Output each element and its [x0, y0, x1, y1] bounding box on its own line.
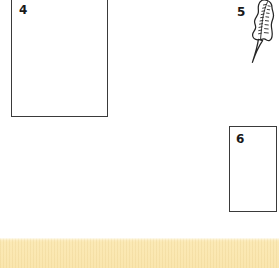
- feather-quill-drawing: [246, 0, 279, 70]
- document-page: 4 5: [0, 0, 279, 268]
- item-number-5: 5: [237, 6, 245, 18]
- item-number-4: 4: [19, 4, 27, 16]
- item-number-6: 6: [236, 133, 244, 145]
- band-top-highlight: [0, 238, 279, 240]
- feather-icon: [246, 0, 279, 70]
- answer-box-4[interactable]: [11, 0, 108, 117]
- page-footer-band: [0, 238, 279, 268]
